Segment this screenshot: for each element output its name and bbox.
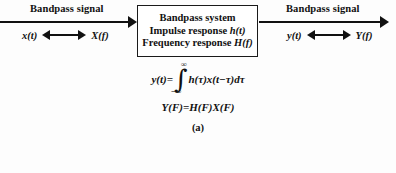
input-transform-pair: x(t) X(f) (22, 29, 109, 41)
input-signal-arrow-line (0, 21, 130, 23)
convolution-equation: y(t)= ∞ ∫ −∞ h(τ)x(t−τ)dτ (0, 64, 396, 94)
input-signal-arrowhead-icon (128, 16, 137, 28)
convolution-lhs: y(t)= (151, 73, 173, 85)
system-title: Bandpass system (159, 12, 235, 25)
integral-lower-limit: −∞ (171, 88, 181, 96)
subfigure-caption: (a) (0, 122, 396, 133)
integral-operator: ∞ ∫ −∞ (174, 64, 188, 94)
output-fourier-pair-arrow-icon (307, 29, 351, 41)
output-frequency-symbol: Y(f) (356, 30, 373, 41)
integral-upper-limit: ∞ (181, 61, 187, 69)
impulse-response-text: Impulse response (149, 25, 229, 36)
input-time-symbol: x(t) (22, 30, 37, 41)
input-signal-label: Bandpass signal (30, 3, 104, 14)
frequency-response-text: Frequency response (142, 37, 234, 48)
output-signal-arrowhead-icon (380, 16, 389, 28)
output-signal-label: Bandpass signal (286, 3, 360, 14)
input-fourier-pair-arrow-icon (42, 29, 86, 41)
convolution-integrand: h(τ)x(t−τ)dτ (188, 73, 244, 85)
input-frequency-symbol: X(f) (91, 30, 109, 41)
frequency-response-symbol: H(f) (234, 37, 253, 48)
integral-sign-icon: ∫ (174, 70, 188, 89)
block-diagram-figure: Bandpass signal x(t) X(f) Bandpass syste… (0, 0, 396, 173)
frequency-domain-equation: Y(F)=H(F)X(F) (0, 101, 396, 113)
output-time-symbol: y(t) (287, 30, 302, 41)
output-transform-pair: y(t) Y(f) (287, 29, 372, 41)
system-frequency-response-line: Frequency response H(f) (142, 37, 252, 50)
output-signal-arrow-line (259, 21, 381, 23)
system-impulse-response-line: Impulse response h(t) (149, 25, 245, 38)
impulse-response-symbol: h(t) (230, 25, 246, 36)
bandpass-system-block: Bandpass system Impulse response h(t) Fr… (137, 5, 258, 57)
